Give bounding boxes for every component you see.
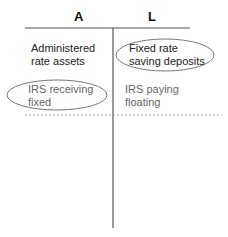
asset-item-irs-receiving-fixed: IRS receiving fixed xyxy=(28,83,93,109)
liability-item-fixed-rate-saving-deposits: Fixed rate saving deposits xyxy=(129,42,205,68)
asset-item-administered-rate-assets: Administered rate assets xyxy=(31,42,95,68)
header-assets: A xyxy=(74,9,83,24)
asset-item-line: IRS receiving xyxy=(28,83,93,96)
liability-item-line: Fixed rate xyxy=(129,42,205,55)
liability-item-irs-paying-floating: IRS paying floating xyxy=(125,83,179,109)
t-account-lines xyxy=(0,0,228,237)
liability-item-line: IRS paying xyxy=(125,83,179,96)
liability-item-line: floating xyxy=(125,96,179,109)
liability-item-line: saving deposits xyxy=(129,55,205,68)
header-liabilities: L xyxy=(148,9,156,24)
asset-item-line: Administered xyxy=(31,42,95,55)
asset-item-line: rate assets xyxy=(31,55,95,68)
asset-item-line: fixed xyxy=(28,96,93,109)
